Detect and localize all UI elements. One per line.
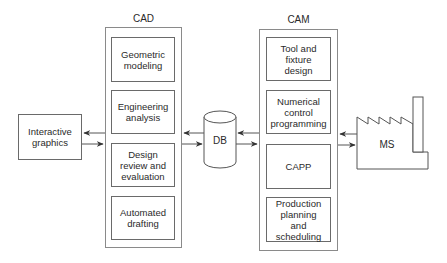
cam-module-tool-fixture-design: Tool and fixture design [266,37,331,81]
module-label: Tool and fixture design [281,43,317,76]
cad-module-design-review: Design review and evaluation [111,143,175,187]
module-label: Production planning and scheduling [276,198,321,242]
cad-module-automated-drafting: Automated drafting [111,196,175,240]
cam-module-nc-programming: Numerical control programming [266,90,331,134]
cad-title: CAD [105,13,182,24]
factory-icon [357,97,428,169]
interactive-graphics-box: Interactive graphics [18,114,82,160]
cam-module-production-planning: Production planning and scheduling [266,197,331,242]
module-label: CAPP [286,161,312,172]
module-label: Numerical control programming [271,96,327,129]
cad-module-engineering-analysis: Engineering analysis [111,90,175,134]
module-label: Engineering analysis [118,101,169,123]
module-label: Automated drafting [120,207,166,229]
manufacturing-system-label: MS [372,139,402,150]
cam-title: CAM [259,14,338,25]
interactive-graphics-label: Interactive graphics [28,126,72,148]
cad-module-geometric-modeling: Geometric modeling [111,37,175,82]
database-label: DB [204,135,236,146]
cam-module-capp: CAPP [266,144,331,189]
module-label: Geometric modeling [121,49,165,71]
module-label: Design review and evaluation [120,149,166,182]
